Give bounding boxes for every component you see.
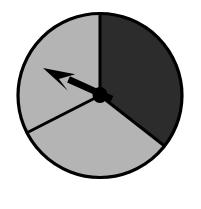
spinner-figure (0, 0, 201, 209)
spinner-hub[interactable] (93, 87, 108, 103)
spinner-graphic[interactable] (0, 0, 201, 209)
